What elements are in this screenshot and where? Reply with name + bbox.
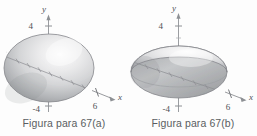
figure-panel-b: y 4 -4 6 x Figura para 67(b) xyxy=(129,0,257,136)
plot-area-b: y 4 -4 6 x xyxy=(129,0,257,118)
axis-label-x-a: x xyxy=(117,92,122,102)
ellipsoid-surface-b xyxy=(130,46,227,98)
axis-label-x-b: x xyxy=(248,92,253,102)
x-tick-label-b: 6 xyxy=(226,102,231,112)
y-tick-label-positive-b: 4 xyxy=(159,21,164,31)
y-tick-label-negative-a: -4 xyxy=(33,104,41,114)
figure-caption-a: Figura para 67(a) xyxy=(0,117,128,130)
y-tick-label-positive-a: 4 xyxy=(29,21,34,31)
surface-plot-b: y 4 -4 6 x xyxy=(129,0,257,118)
figure-sheet: y 4 -4 6 x Figura para 67(a) xyxy=(0,0,257,136)
x-tick-label-a: 6 xyxy=(93,101,98,111)
surface-plot-a: y 4 -4 6 x xyxy=(0,0,128,118)
ellipsoid-surface-a xyxy=(0,33,94,109)
figure-caption-b: Figura para 67(b) xyxy=(129,117,257,130)
figure-panel-a: y 4 -4 6 x Figura para 67(a) xyxy=(0,0,128,136)
y-tick-label-negative-b: -4 xyxy=(163,104,171,114)
axis-label-y-a: y xyxy=(41,4,46,14)
axis-label-y-b: y xyxy=(171,3,176,13)
plot-area-a: y 4 -4 6 x xyxy=(0,0,128,118)
